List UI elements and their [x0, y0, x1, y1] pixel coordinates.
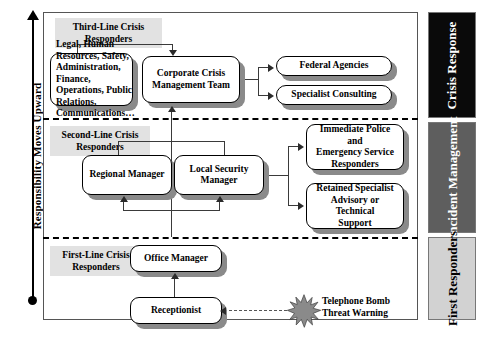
receptionist-box: Receptionist	[130, 297, 222, 324]
retained-specialist-box: Retained Specialist Advisory or Technica…	[306, 183, 404, 229]
connector-services-split	[288, 146, 289, 206]
arrow-into-office-manager-icon	[171, 273, 179, 279]
section-tag-second-line-l2: Responders	[56, 141, 144, 153]
section-tag-first-line: First-Line Crisis Responders	[50, 246, 142, 276]
connector-managers-bracket	[118, 141, 225, 142]
receptionist-label: Receptionist	[151, 305, 201, 317]
connector-lower-right-up	[219, 202, 220, 211]
explosion-burst-icon	[287, 294, 321, 332]
police-responders-label-l3: Responders	[331, 159, 379, 171]
office-manager-label: Office Manager	[144, 253, 208, 265]
ccmt-box: Corporate Crisis Management Team	[142, 56, 240, 103]
section-divider-bottom	[43, 237, 418, 239]
departments-box: Legal, Human Resources, Safety, Administ…	[50, 53, 133, 106]
federal-agencies-box: Federal Agencies	[276, 56, 392, 76]
section-tag-first-line-l1: First-Line Crisis	[56, 249, 136, 261]
band-first-responders: First Responders	[428, 237, 476, 320]
connector-threat-to-receptionist	[224, 310, 287, 311]
retained-specialist-label-l1: Retained Specialist	[316, 183, 393, 195]
arrow-into-ccmt-top-icon	[169, 50, 177, 56]
arrow-into-receptionist-icon	[220, 307, 226, 315]
police-responders-label-l2: Emergency Service	[316, 147, 394, 159]
connector-lower-bracket	[123, 210, 220, 211]
connector-ccmt-split	[258, 67, 259, 95]
arrow-into-specialist-consulting-icon	[268, 92, 274, 100]
arrow-into-retained-specialist-icon	[298, 202, 304, 210]
band-crisis-response-label: Crisis Response	[445, 21, 460, 109]
responsibility-axis-origin-dot	[28, 296, 37, 305]
band-incident-management-label: Incident Management	[445, 116, 460, 238]
arrow-into-ccmt-bottom-icon	[168, 106, 176, 112]
connector-bracket-left-down	[118, 141, 119, 155]
arrow-into-police-responders-icon	[298, 143, 304, 151]
crisis-management-diagram: Responsibility Moves Upward Crisis Respo…	[0, 0, 488, 343]
local-security-manager-box: Local Security Manager	[174, 155, 264, 195]
band-first-responders-label: First Responders	[445, 231, 460, 326]
responsibility-axis-label: Responsibility Moves Upward	[31, 56, 43, 256]
specialist-consulting-box: Specialist Consulting	[276, 85, 392, 105]
arrow-into-regional-manager-icon	[120, 196, 128, 202]
local-security-manager-label-l1: Local Security	[190, 164, 249, 176]
departments-label: Legal, Human Resources, Safety, Administ…	[56, 39, 135, 120]
retained-specialist-label-l2: Advisory or Technical	[311, 195, 399, 218]
police-responders-label-l1: Immediate Police and	[311, 124, 399, 147]
band-crisis-response: Crisis Response	[428, 12, 476, 118]
local-security-manager-label-l2: Manager	[201, 175, 238, 187]
connector-bracket-right-down	[224, 141, 225, 155]
telephone-bomb-threat-label-l2: Threat Warning	[322, 308, 412, 320]
connector-lower-left-up	[123, 202, 124, 211]
telephone-bomb-threat-label: Telephone Bomb Threat Warning	[322, 296, 412, 319]
section-tag-first-line-l2: Responders	[56, 261, 136, 273]
office-manager-box: Office Manager	[130, 245, 222, 272]
police-responders-box: Immediate Police and Emergency Service R…	[306, 124, 404, 170]
regional-manager-box: Regional Manager	[82, 155, 172, 195]
retained-specialist-label-l3: Support	[338, 218, 371, 230]
regional-manager-label: Regional Manager	[89, 169, 164, 181]
section-tag-third-line-l1: Third-Line Crisis	[61, 21, 156, 33]
ccmt-label-l2: Management Team	[152, 80, 230, 92]
federal-agencies-label: Federal Agencies	[300, 60, 369, 72]
section-tag-second-line-l1: Second-Line Crisis	[56, 129, 144, 141]
arrow-into-local-security-manager-icon	[216, 196, 224, 202]
telephone-bomb-threat-label-l1: Telephone Bomb	[322, 296, 412, 308]
arrow-into-federal-agencies-icon	[268, 64, 274, 72]
ccmt-label-l1: Corporate Crisis	[157, 68, 225, 80]
specialist-consulting-label: Specialist Consulting	[291, 89, 376, 101]
band-incident-management: Incident Management	[428, 122, 476, 233]
